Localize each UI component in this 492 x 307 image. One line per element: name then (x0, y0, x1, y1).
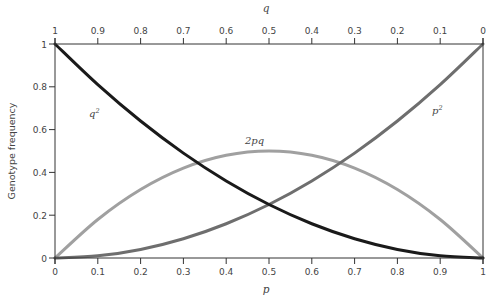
x2-tick-label: 0.3 (347, 26, 361, 36)
genotype-frequency-chart: 00.10.20.30.40.50.60.70.80.9110.90.80.70… (0, 0, 492, 307)
y-axis-label: Genotype frequency (6, 102, 17, 199)
x-tick-label: 1 (480, 267, 486, 277)
x-tick-label: 0 (52, 267, 58, 277)
curves (55, 44, 483, 258)
x-tick-label: 0.6 (305, 267, 320, 277)
x-axis-label: p (263, 283, 270, 295)
y-tick-label: 0.2 (33, 211, 47, 221)
x2-tick-label: 0.6 (219, 26, 234, 36)
x2-tick-label: 0.8 (133, 26, 148, 36)
curve-label-p: p2 (432, 104, 443, 116)
x2-tick-label: 0.2 (390, 26, 404, 36)
y-tick-label: 1 (41, 40, 47, 50)
x2-tick-label: 0.1 (433, 26, 447, 36)
y-tick-label: 0.6 (33, 125, 48, 135)
y-tick-label: 0.4 (33, 168, 48, 178)
x-tick-label: 0.4 (219, 267, 234, 277)
x-tick-label: 0.3 (176, 267, 190, 277)
x2-tick-label: 0 (480, 26, 486, 36)
x-tick-label: 0.1 (91, 267, 105, 277)
y-tick-label: 0.8 (33, 82, 48, 92)
x-tick-label: 0.8 (390, 267, 405, 277)
x2-tick-label: 1 (52, 26, 58, 36)
x2-axis-label: q (263, 2, 270, 14)
x-tick-label: 0.9 (433, 267, 448, 277)
x2-tick-label: 0.4 (305, 26, 320, 36)
x-tick-label: 0.7 (347, 267, 361, 277)
x2-tick-label: 0.7 (176, 26, 190, 36)
y-tick-label: 0 (41, 254, 47, 264)
curve-label-q: q2 (89, 107, 100, 119)
curve-label-2pq: 2pq (244, 135, 264, 146)
x2-tick-label: 0.9 (91, 26, 106, 36)
x-tick-label: 0.5 (262, 267, 276, 277)
x-tick-label: 0.2 (133, 267, 147, 277)
x2-tick-label: 0.5 (262, 26, 276, 36)
